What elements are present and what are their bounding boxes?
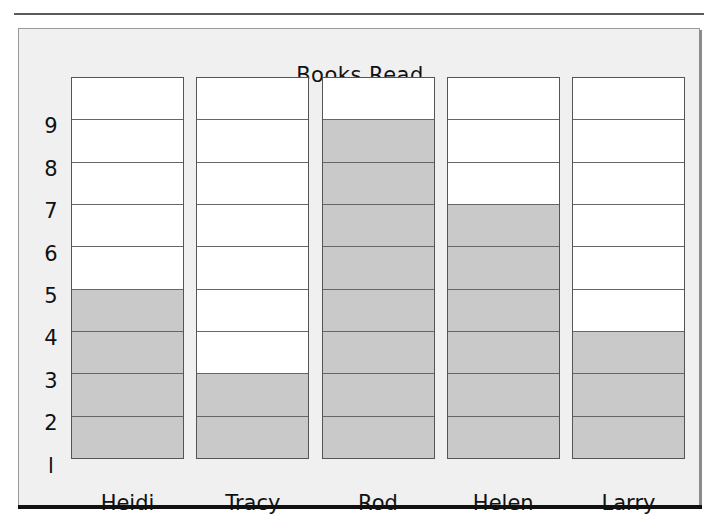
bar-cell-filled — [197, 417, 308, 458]
bar-cell-filled — [323, 290, 434, 332]
bar-cell-filled — [448, 374, 559, 416]
bar-cell-empty — [573, 163, 684, 205]
column-group — [71, 77, 685, 459]
bar-cell-empty — [448, 78, 559, 120]
bar-cell-filled — [448, 290, 559, 332]
bar-cell-empty — [72, 163, 183, 205]
y-tick-label: 2 — [33, 402, 69, 444]
bar-column — [572, 77, 685, 459]
bar-cell-filled — [323, 163, 434, 205]
bar-cell-filled — [323, 374, 434, 416]
bar-cell-empty — [72, 247, 183, 289]
bar-cell-empty — [323, 78, 434, 120]
bar-column — [447, 77, 560, 459]
bar-cell-empty — [573, 78, 684, 120]
bar-column — [196, 77, 309, 459]
bar-cell-empty — [72, 78, 183, 120]
y-tick-label: 9 — [33, 105, 69, 147]
bar-cell-filled — [323, 120, 434, 162]
bar-cell-filled — [323, 332, 434, 374]
bar-cell-filled — [323, 247, 434, 289]
bar-cell-empty — [197, 163, 308, 205]
y-tick-label: 6 — [33, 232, 69, 274]
bar-cell-filled — [323, 417, 434, 458]
y-tick-label: 4 — [33, 317, 69, 359]
y-tick-label: 7 — [33, 190, 69, 232]
bar-cell-filled — [573, 374, 684, 416]
chart-frame: Books Read 98765432l HeidiTracyRodHelenL… — [18, 28, 700, 508]
bar-cell-filled — [323, 205, 434, 247]
bar-cell-empty — [197, 290, 308, 332]
bar-cell-empty — [197, 78, 308, 120]
y-tick-label: l — [33, 445, 69, 487]
bar-column — [71, 77, 184, 459]
bar-cell-empty — [197, 120, 308, 162]
bar-cell-filled — [448, 205, 559, 247]
frame-baseline — [18, 505, 702, 509]
y-tick-label: 5 — [33, 275, 69, 317]
bar-cell-filled — [448, 417, 559, 458]
y-axis-tick-labels: 98765432l — [33, 105, 69, 487]
bar-cell-filled — [197, 374, 308, 416]
top-horizontal-rule — [14, 13, 704, 15]
bar-cell-empty — [573, 120, 684, 162]
bar-cell-empty — [573, 247, 684, 289]
bar-column — [322, 77, 435, 459]
bar-cell-filled — [72, 417, 183, 458]
y-tick-label: 3 — [33, 360, 69, 402]
bar-cell-filled — [72, 332, 183, 374]
bar-cell-filled — [448, 247, 559, 289]
bar-cell-empty — [72, 120, 183, 162]
bar-cell-filled — [72, 290, 183, 332]
y-tick-label: 8 — [33, 147, 69, 189]
bar-cell-empty — [448, 120, 559, 162]
bar-cell-empty — [197, 205, 308, 247]
bar-cell-filled — [573, 417, 684, 458]
bar-cell-empty — [197, 247, 308, 289]
bar-cell-empty — [197, 332, 308, 374]
plot-area — [71, 77, 685, 459]
bar-cell-empty — [448, 163, 559, 205]
frame-right-edge — [699, 30, 702, 508]
bar-cell-empty — [72, 205, 183, 247]
bar-cell-empty — [573, 205, 684, 247]
bar-cell-filled — [573, 332, 684, 374]
bar-cell-filled — [448, 332, 559, 374]
bar-cell-filled — [72, 374, 183, 416]
bar-cell-empty — [573, 290, 684, 332]
